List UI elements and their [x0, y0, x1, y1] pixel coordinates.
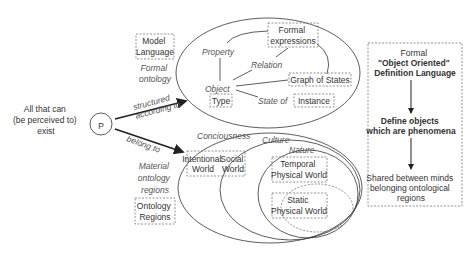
state-of-label: State of: [258, 96, 289, 106]
object-stateof-link: [236, 90, 258, 97]
structured-label: structured according to: [132, 90, 182, 120]
model-language-label: Model Language: [136, 36, 174, 57]
static-physical-world-label: Static Physical World: [271, 195, 327, 216]
right-panel-title: Formal "Object Oriented" Definition Lang…: [374, 48, 456, 78]
expressions-graph-link: [317, 44, 329, 74]
culture-label: Culture: [262, 135, 290, 145]
relation-label: Relation: [251, 60, 282, 70]
conciousness-label: Conciousness: [197, 131, 251, 141]
type-label: Type: [212, 96, 231, 106]
object-label: Object: [205, 84, 230, 94]
material-ontology-label: Material ontology regions: [138, 161, 173, 195]
object-relation-link: [233, 70, 252, 80]
belong-label: belong to: [125, 133, 162, 154]
object-graph-link: [236, 80, 288, 86]
nature-label: Nature: [289, 145, 315, 155]
property-expressions-link: [227, 31, 268, 43]
p-symbol: P: [98, 121, 104, 131]
source-label: All that can (be perceived to) exist: [13, 104, 79, 136]
intentional-world-label: Intentional World: [182, 154, 224, 174]
temporal-physical-world-label: Temporal Physical World: [271, 159, 327, 180]
formal-ontology-label: Formal ontology: [139, 63, 172, 84]
property-label: Property: [202, 47, 235, 57]
ontology-diagram: All that can (be perceived to) exist P s…: [0, 0, 471, 253]
conciousness-ellipse: [178, 133, 362, 243]
instance-label: Instance: [298, 96, 330, 106]
right-panel-step2: Define objects which are phenomena: [365, 116, 456, 136]
right-panel-step3: Shared between minds belonging ontologic…: [366, 173, 455, 203]
ontology-regions-label: Ontology Regions: [137, 201, 173, 222]
social-world-label: Social World: [220, 154, 246, 174]
formal-expressions-label: Formal expressions: [270, 25, 315, 46]
relation-expressions-link: [276, 48, 288, 57]
graph-of-states-label: Graph of States: [290, 75, 350, 85]
